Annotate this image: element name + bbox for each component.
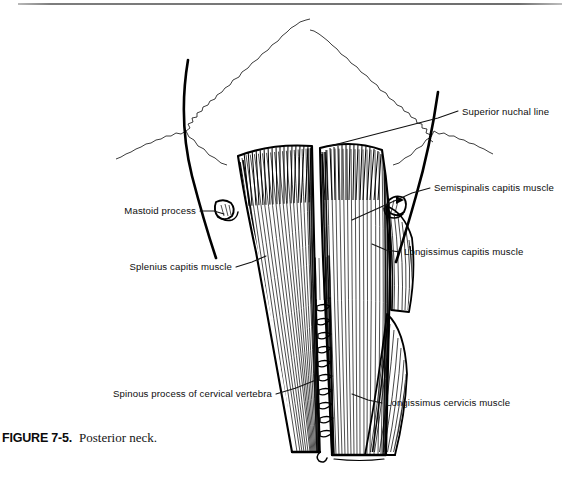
leader-superior-nuchal-line — [330, 111, 458, 146]
figure-container: Superior nuchal line Semispinalis capiti… — [0, 0, 584, 484]
figure-number: FIGURE 7-5. — [2, 431, 72, 445]
label-longissimus-capitis-muscle: Longissimus capitis muscle — [404, 246, 523, 257]
splenius-fiber-hatching — [240, 145, 318, 452]
posterior-neck-illustration: Superior nuchal line Semispinalis capiti… — [0, 0, 584, 484]
skull-suture-outline — [116, 19, 493, 165]
label-longissimus-cervicis-muscle: Longissimus cervicis muscle — [386, 397, 510, 408]
label-superior-nuchal-line: Superior nuchal line — [462, 106, 549, 117]
splenius-origin-fan — [244, 144, 311, 206]
label-mastoid-process: Mastoid process — [124, 205, 196, 216]
figure-caption: FIGURE 7-5. Posterior neck. — [0, 430, 584, 456]
label-splenius-capitis-muscle: Splenius capitis muscle — [130, 261, 232, 272]
label-semispinalis-capitis-muscle: Semispinalis capitis muscle — [434, 182, 554, 193]
mastoid-process-left — [215, 200, 238, 220]
leader-splenius-capitis-muscle — [236, 256, 266, 267]
label-spinous-process-of-cervical-vertebra: Spinous process of cervical vertebra — [113, 388, 273, 399]
figure-caption-text: Posterior neck. — [79, 430, 157, 446]
splenius-capitis-muscle-body — [238, 144, 319, 452]
